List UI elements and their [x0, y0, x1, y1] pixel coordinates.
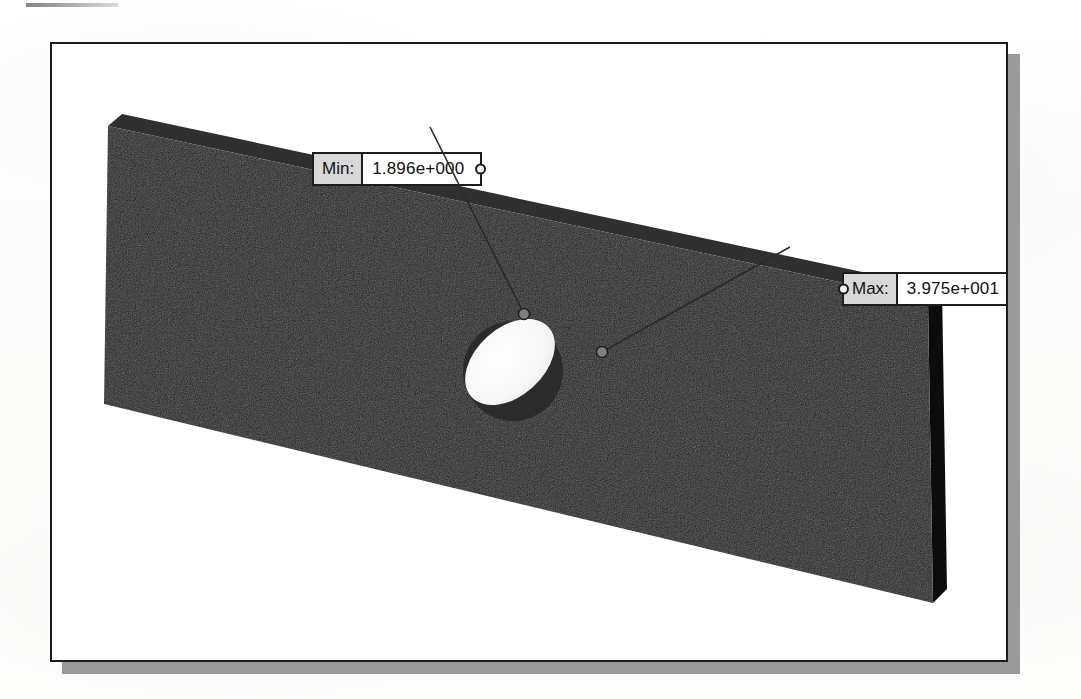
- plate-model: [52, 44, 1006, 660]
- plate-geometry: [52, 44, 1008, 662]
- min-callout-label: Min:: [314, 154, 363, 184]
- min-anchor-dot-icon[interactable]: [475, 164, 486, 175]
- min-value-callout[interactable]: Min: 1.896e+000: [312, 152, 482, 186]
- scan-edge-artifact: [26, 3, 118, 7]
- max-callout-label: Max:: [844, 274, 898, 304]
- max-value-callout[interactable]: Max: 3.975e+001: [842, 272, 1008, 306]
- max-anchor-dot-icon[interactable]: [838, 284, 849, 295]
- figure-frame: Min: 1.896e+000 Max: 3.975e+001: [50, 42, 1008, 662]
- figure-page: Min: 1.896e+000 Max: 3.975e+001: [0, 0, 1081, 699]
- min-callout-value: 1.896e+000: [363, 154, 480, 184]
- max-callout-value: 3.975e+001: [898, 274, 1008, 304]
